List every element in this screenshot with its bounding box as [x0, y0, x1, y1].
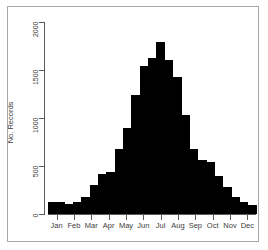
- y-axis-tick-label: 1000: [33, 118, 40, 134]
- y-axis-title: No. Records: [6, 93, 15, 153]
- histogram-figure: 0500100015002000 JanFebMarAprMayJunJulAu…: [0, 0, 268, 250]
- y-axis-tick: [39, 118, 44, 119]
- x-axis-tick: [126, 215, 127, 220]
- histogram-bar: [248, 205, 257, 214]
- y-axis-line: [44, 22, 45, 215]
- y-axis-tick: [39, 214, 44, 215]
- x-axis-tick: [230, 215, 231, 220]
- y-axis-tick: [39, 70, 44, 71]
- y-axis-tick: [39, 166, 44, 167]
- x-axis-tick: [109, 215, 110, 220]
- plot-area: [0, 0, 268, 250]
- x-axis-tick: [178, 215, 179, 220]
- y-axis-tick-label: 0: [33, 214, 40, 218]
- x-axis-tick: [247, 215, 248, 220]
- x-axis-tick: [213, 215, 214, 220]
- x-axis-tick: [161, 215, 162, 220]
- x-axis-tick: [143, 215, 144, 220]
- x-axis-tick: [74, 215, 75, 220]
- x-axis-tick: [57, 215, 58, 220]
- x-axis-line: [48, 214, 256, 215]
- y-axis-tick-label: 2000: [33, 22, 40, 38]
- x-axis-tick: [195, 215, 196, 220]
- y-axis-tick: [39, 22, 44, 23]
- y-axis-tick-label: 500: [33, 166, 40, 178]
- y-axis-tick-label: 1500: [33, 70, 40, 86]
- x-axis-tick: [91, 215, 92, 220]
- x-axis-tick-label: Dec: [235, 222, 259, 230]
